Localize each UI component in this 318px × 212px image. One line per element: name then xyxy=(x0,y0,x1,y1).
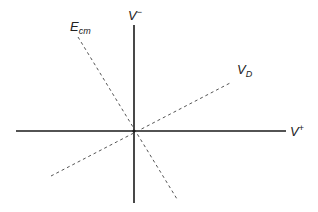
label-e-cm-main: E xyxy=(70,19,79,34)
label-v-minus-main: V xyxy=(128,8,137,23)
label-v-d-main: V xyxy=(237,62,246,77)
label-v-minus-sup: − xyxy=(137,7,142,17)
origin-point xyxy=(132,129,135,132)
label-v-minus: V− xyxy=(128,8,142,22)
label-v-d: VD xyxy=(237,63,252,79)
label-e-cm: Ecm xyxy=(70,20,91,36)
label-v-plus-sup: + xyxy=(299,123,304,133)
dashed-line-e-cm xyxy=(78,37,177,199)
label-v-plus-main: V xyxy=(290,124,299,139)
dashed-line-v-d xyxy=(51,82,232,176)
label-v-d-sub: D xyxy=(246,69,253,79)
vector-diagram xyxy=(0,0,318,212)
label-e-cm-sub: cm xyxy=(79,26,91,36)
label-v-plus: V+ xyxy=(290,124,304,138)
